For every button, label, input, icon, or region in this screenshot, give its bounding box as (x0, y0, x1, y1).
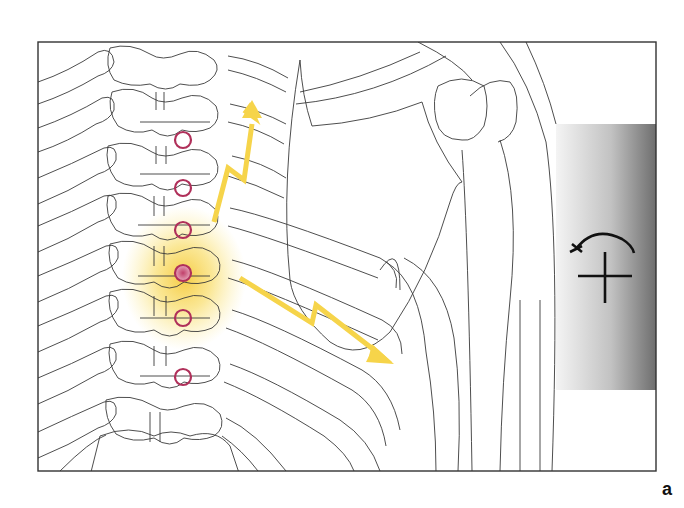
right-ribs (222, 56, 402, 471)
humerus (418, 42, 555, 471)
anatomy-outlines (38, 42, 556, 476)
spine-shoulder-diagram (0, 0, 684, 508)
panel-label: a (662, 479, 672, 500)
segment-marker (175, 132, 191, 148)
segment-marker (175, 180, 191, 196)
scapula (287, 60, 462, 350)
segment-marker-active (175, 265, 191, 281)
upward-referral-arrow-icon (214, 100, 262, 222)
